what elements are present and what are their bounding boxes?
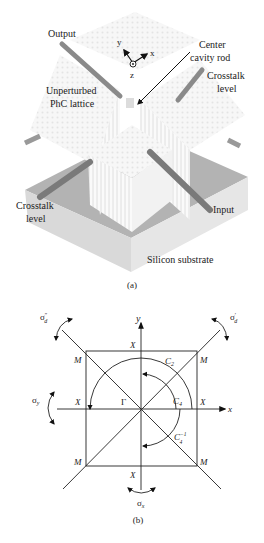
sigma-d2-arrow bbox=[56, 319, 72, 340]
label-x-left: X bbox=[74, 397, 81, 407]
axis-y-label: y bbox=[117, 37, 122, 47]
label-crosstalk-left-line2: level bbox=[26, 213, 46, 224]
label-crosstalk-right-line1: Crosstalk bbox=[207, 70, 245, 81]
label-c2: C2 bbox=[165, 356, 174, 367]
sigma-y-arrow bbox=[48, 392, 54, 424]
label-m-bottom-right: M bbox=[199, 457, 208, 467]
label-x-top: X bbox=[129, 340, 136, 350]
label-axis-x: x bbox=[227, 404, 232, 414]
label-sigma-d2: σ″d bbox=[40, 312, 48, 324]
label-crosstalk-left-line1: Crosstalk bbox=[16, 200, 54, 211]
label-crosstalk-right-line2: level bbox=[217, 83, 237, 94]
center-cavity-rod bbox=[126, 98, 134, 108]
label-m-top-right: M bbox=[199, 355, 208, 365]
label-gamma: Γ bbox=[121, 397, 126, 407]
caption-b: (b) bbox=[133, 515, 144, 525]
label-m-bottom-left: M bbox=[73, 457, 82, 467]
diagonal-sigma-d1 bbox=[63, 330, 220, 489]
figure-a-photonic-crystal: y x z Output Center cavity rod Crosstalk… bbox=[16, 12, 248, 290]
label-x-right: X bbox=[199, 397, 206, 407]
label-m-top-left: M bbox=[73, 355, 82, 365]
figure-canvas: y x z Output Center cavity rod Crosstalk… bbox=[0, 0, 264, 543]
label-x-bottom: X bbox=[129, 470, 136, 480]
label-input: Input bbox=[213, 204, 234, 215]
figure-b-labels: y x X X X X M M M M Γ C2 C4 C−14 σ″d σ′d… bbox=[32, 312, 238, 525]
label-unperturbed-line1: Unperturbed bbox=[46, 85, 97, 96]
label-output: Output bbox=[48, 28, 76, 39]
label-c4-inverse: C−14 bbox=[174, 431, 187, 445]
label-sigma-d1: σ′d bbox=[230, 312, 238, 324]
axis-z-label: z bbox=[130, 70, 134, 80]
label-sigma-x: σx bbox=[137, 498, 145, 509]
label-sigma-y: σy bbox=[32, 395, 40, 406]
sigma-d1-arrow bbox=[212, 319, 227, 340]
caption-a: (a) bbox=[127, 280, 137, 290]
label-axis-y: y bbox=[135, 313, 141, 324]
label-c4: C4 bbox=[173, 396, 182, 407]
label-center-line2: cavity rod bbox=[190, 52, 230, 63]
label-substrate: Silicon substrate bbox=[147, 254, 214, 265]
sigma-x-arrow bbox=[128, 488, 155, 493]
label-center-line1: Center bbox=[199, 39, 226, 50]
label-unperturbed-line2: PhC lattice bbox=[50, 98, 95, 109]
axis-x-label: x bbox=[150, 48, 155, 58]
